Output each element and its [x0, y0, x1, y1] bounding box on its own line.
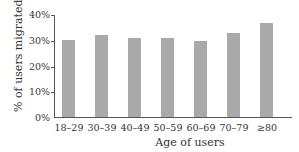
y-tick-label: 30%: [22, 35, 50, 46]
x-axis-line: [54, 117, 292, 118]
x-axis-label: Age of users: [140, 136, 240, 149]
bar-30–39: [95, 35, 108, 117]
bar-≥80: [260, 23, 273, 117]
bar-60–69: [194, 41, 207, 117]
x-tick-label: 50–59: [151, 122, 185, 133]
bar-40–49: [128, 38, 141, 117]
y-tick-label: 10%: [22, 86, 50, 97]
y-axis-line: [54, 15, 55, 118]
x-tick-label: 18–29: [52, 122, 86, 133]
x-tick-label: 40–49: [118, 122, 152, 133]
y-tick-label: 40%: [22, 9, 50, 20]
y-tick-label: 20%: [22, 61, 50, 72]
y-tick-label: 0%: [22, 112, 50, 123]
bar-50–59: [161, 38, 174, 117]
x-tick-label: 60–69: [184, 122, 218, 133]
bar-18–29: [62, 40, 75, 117]
bar-70–79: [227, 33, 240, 117]
x-tick-label: 70–79: [217, 122, 251, 133]
x-tick-label: 30–39: [85, 122, 119, 133]
bar-chart: % of users migrated 40% 30% 20% 10% 0% 1…: [0, 0, 299, 152]
x-tick-label: ≥80: [250, 122, 284, 133]
